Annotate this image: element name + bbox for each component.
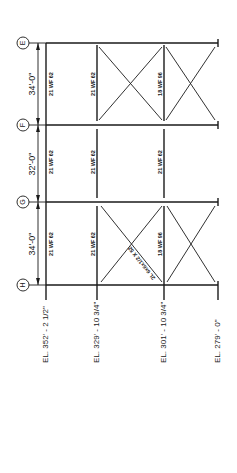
bubble-E: E [19, 40, 26, 45]
brace-label: 2L 6x6x1/2 X 52 [127, 245, 157, 281]
member-label: 21 WF 62 [157, 150, 163, 174]
bubble-G: G [19, 199, 26, 204]
elevation-label: EL. 279' - 0" [213, 319, 222, 363]
member-label: 21 WF 62 [48, 232, 54, 256]
elevation-labels: EL. 352' - 2 1/2" EL. 329' - 10 3/4" EL.… [41, 302, 222, 363]
bubble-F: F [19, 123, 26, 127]
member-label: 21 WF 62 [90, 150, 96, 174]
member-label: 21 WF 62 [48, 150, 54, 174]
elevation-label: EL. 352' - 2 1/2" [41, 306, 50, 363]
member-label: 18 WF 96 [157, 232, 163, 256]
dim-EF: 34'-0" [27, 73, 37, 96]
member-label: 21 WF 62 [48, 72, 54, 96]
frame-elevation-drawing: 34'-0" 32'-0" 34'-0" E F G H 21 WF 62 21… [0, 0, 237, 473]
member-label: 18 WF 96 [157, 72, 163, 96]
grid-lines [46, 39, 218, 300]
floor-lines [46, 43, 164, 300]
dim-GH: 34'-0" [27, 233, 37, 256]
member-labels: 21 WF 62 21 WF 62 18 WF 96 21 WF 62 21 W… [48, 72, 163, 281]
elevation-label: EL. 301' - 10 3/4" [159, 302, 168, 363]
bubble-H: H [19, 282, 26, 287]
member-label: 21 WF 62 [90, 72, 96, 96]
member-label: 21 WF 62 [90, 232, 96, 256]
dim-FG: 32'-0" [27, 153, 37, 176]
elevation-label: EL. 329' - 10 3/4" [92, 302, 101, 363]
dimension-line: 34'-0" 32'-0" 34'-0" [27, 43, 40, 285]
